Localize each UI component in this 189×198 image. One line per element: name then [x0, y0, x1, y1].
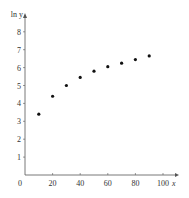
data-point	[65, 84, 68, 87]
x-tick-label: 0	[18, 179, 22, 188]
y-tick-label: 1	[17, 153, 21, 162]
data-point	[92, 70, 95, 73]
axes: 02040608010012345678ln yx	[11, 10, 179, 188]
x-tick-label: 80	[131, 179, 139, 188]
data-point	[134, 58, 137, 61]
x-axis-arrow-icon	[175, 173, 179, 177]
x-axis-label: x	[171, 179, 176, 188]
data-point	[51, 95, 54, 98]
y-tick-label: 5	[17, 82, 21, 91]
scatter-chart: 02040608010012345678ln yx	[0, 0, 189, 198]
x-tick-label: 40	[76, 179, 84, 188]
y-tick-label: 6	[17, 64, 21, 73]
x-tick-label: 60	[104, 179, 112, 188]
y-tick-label: 3	[17, 117, 21, 126]
y-axis-label: ln y	[11, 10, 23, 19]
data-point	[120, 62, 123, 65]
y-tick-label: 4	[17, 99, 21, 108]
data-point	[148, 54, 151, 57]
x-tick-label: 100	[157, 179, 169, 188]
y-tick-label: 8	[17, 28, 21, 37]
y-tick-label: 2	[17, 135, 21, 144]
y-axis-arrow-icon	[23, 13, 27, 18]
data-points	[37, 54, 151, 115]
data-point	[106, 65, 109, 68]
x-tick-label: 20	[49, 179, 57, 188]
y-tick-label: 7	[17, 46, 21, 55]
data-point	[79, 76, 82, 79]
data-point	[37, 113, 40, 116]
